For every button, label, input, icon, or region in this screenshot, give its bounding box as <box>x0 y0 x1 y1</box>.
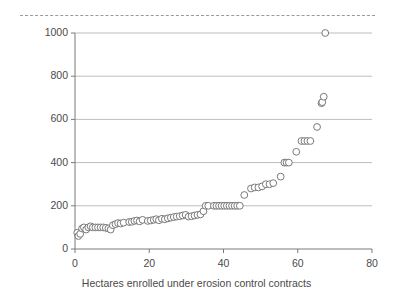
x-axis-title: Hectares enrolled under erosion control … <box>0 277 393 289</box>
data-point <box>241 192 248 199</box>
y-tick-label-0: 0 <box>20 242 68 254</box>
x-tick-label-60: 60 <box>278 257 318 269</box>
x-tick-label-20: 20 <box>129 257 169 269</box>
data-point <box>293 148 300 155</box>
data-point <box>314 124 321 131</box>
data-point <box>320 93 327 100</box>
data-point <box>322 30 329 37</box>
y-tick-label-800: 800 <box>20 69 68 81</box>
data-point <box>270 180 277 187</box>
data-point <box>236 202 243 209</box>
x-tick-label-80: 80 <box>352 257 392 269</box>
data-point <box>307 138 314 145</box>
x-tick-label-0: 0 <box>55 257 95 269</box>
plot-canvas <box>0 0 393 300</box>
scatter-plot-figure: Landholder bids (WTA) soil conservation … <box>0 0 393 300</box>
data-point <box>285 159 292 166</box>
y-tick-label-200: 200 <box>20 199 68 211</box>
x-tick-label-40: 40 <box>204 257 244 269</box>
y-tick-label-600: 600 <box>20 112 68 124</box>
data-series-landholder-bids <box>74 30 329 240</box>
y-tick-label-1000: 1000 <box>20 26 68 38</box>
y-tick-label-400: 400 <box>20 156 68 168</box>
data-point <box>277 173 284 180</box>
